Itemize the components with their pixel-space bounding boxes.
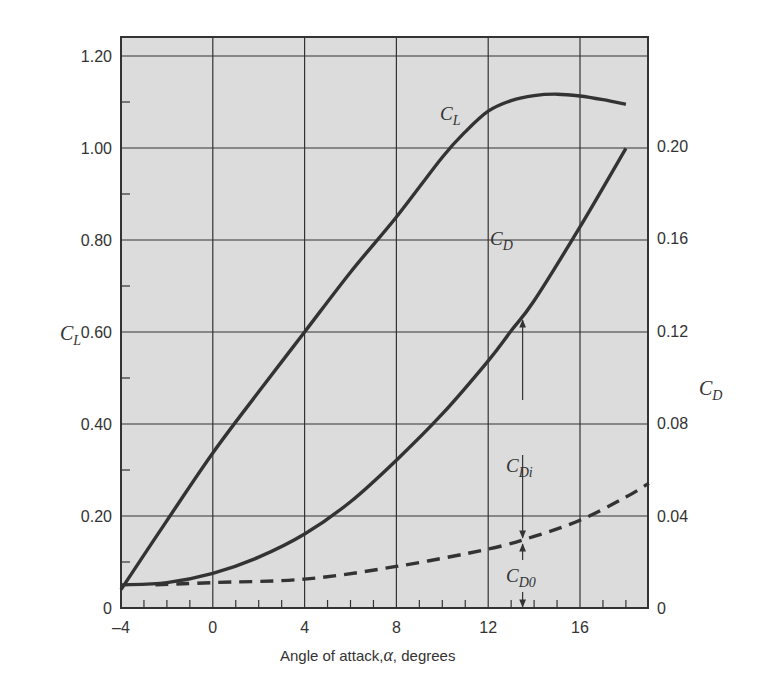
left-y-tick-label: 0.20 (81, 508, 112, 525)
x-axis-title: Angle of attack,α, degrees (280, 645, 455, 665)
x-tick-label: 16 (571, 619, 589, 636)
lift-drag-chart: –40481216 00.200.400.600.801.001.20 00.0… (0, 0, 757, 693)
left-y-axis-tick-labels: 00.200.400.600.801.001.20 (81, 48, 112, 617)
right-y-axis-tick-labels: 00.040.080.120.160.20 (657, 138, 688, 617)
right-y-tick-label: 0 (657, 600, 666, 617)
right-y-tick-label: 0.12 (657, 323, 688, 340)
right-y-tick-label: 0.16 (657, 230, 688, 247)
right-y-tick-label: 0.08 (657, 415, 688, 432)
x-tick-label: 4 (300, 619, 309, 636)
right-y-tick-label: 0.20 (657, 138, 688, 155)
right-y-axis-title: CD (699, 377, 722, 403)
x-tick-label: 0 (208, 619, 217, 636)
x-tick-label: –4 (112, 619, 130, 636)
plot-area (121, 37, 648, 608)
left-y-tick-label: 1.20 (81, 48, 112, 65)
left-y-tick-label: 0.60 (81, 324, 112, 341)
left-y-tick-label: 0.80 (81, 232, 112, 249)
left-y-tick-label: 1.00 (81, 140, 112, 157)
right-y-tick-label: 0.04 (657, 508, 688, 525)
left-y-axis-title: CL (60, 322, 81, 348)
x-axis-tick-labels: –40481216 (112, 619, 589, 636)
x-tick-label: 12 (479, 619, 497, 636)
left-y-tick-label: 0.40 (81, 416, 112, 433)
x-tick-label: 8 (392, 619, 401, 636)
left-y-tick-label: 0 (103, 600, 112, 617)
